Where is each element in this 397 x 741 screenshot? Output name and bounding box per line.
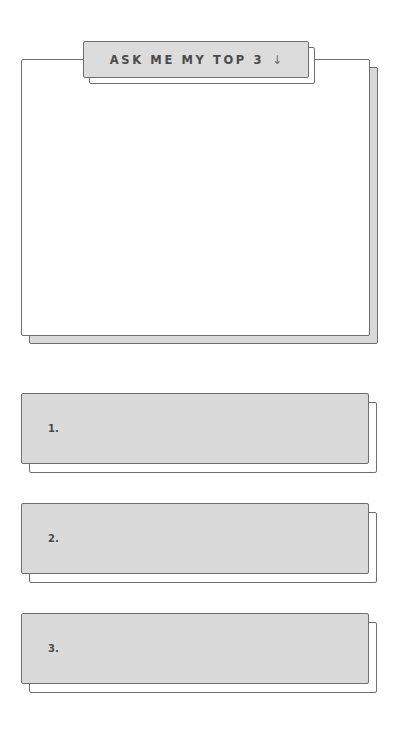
header-title: ASK ME MY TOP 3 [110, 53, 264, 67]
rank-3-box[interactable]: 3. [21, 613, 369, 684]
rank-2-box[interactable]: 2. [21, 503, 369, 574]
rank-3-label: 3. [48, 643, 59, 654]
arrow-down-icon: ↓ [272, 53, 282, 67]
rank-1-label: 1. [48, 423, 59, 434]
answer-card[interactable] [21, 59, 370, 336]
rank-2-label: 2. [48, 533, 59, 544]
header-tab: ASK ME MY TOP 3 ↓ [83, 41, 309, 78]
rank-1-box[interactable]: 1. [21, 393, 369, 464]
